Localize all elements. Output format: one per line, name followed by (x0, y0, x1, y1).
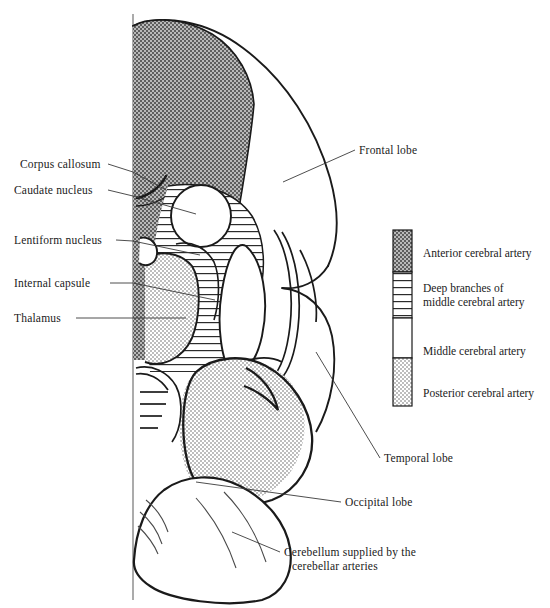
label-corpus-callosum: Corpus callosum (20, 157, 101, 171)
legend-label-anterior-cerebral-artery: Anterior cerebral artery (423, 246, 532, 260)
legend-swatch-posterior (393, 358, 412, 406)
label-caudate-nucleus: Caudate nucleus (14, 183, 93, 197)
label-occipital-lobe: Occipital lobe (345, 495, 413, 509)
cerebellum-shape (134, 477, 291, 603)
legend-label-deep-branches-line1: Deep branches of (423, 281, 503, 295)
caption-cerebellum-line2: cerebellar arteries (292, 559, 378, 573)
label-lentiform-nucleus: Lentiform nucleus (14, 233, 102, 247)
label-temporal-lobe: Temporal lobe (384, 451, 453, 465)
legend-swatch-middle (393, 318, 412, 358)
lateral-sulcus-structures (272, 230, 316, 380)
legend-label-deep-branches-line2: middle cerebral artery (423, 295, 525, 309)
legend-label-middle-cerebral-artery: Middle cerebral artery (423, 344, 526, 358)
label-thalamus: Thalamus (14, 311, 61, 325)
legend-swatch-anterior (393, 230, 412, 272)
caption-cerebellum-line1: Cerebellum supplied by the (284, 545, 416, 559)
legend-swatch-deep-branches (393, 272, 412, 318)
legend-bar (393, 230, 412, 406)
label-frontal-lobe: Frontal lobe (359, 143, 417, 157)
brainstem-structures (136, 367, 181, 442)
label-internal-capsule: Internal capsule (14, 276, 90, 290)
caudate-nucleus-shape (171, 185, 231, 247)
legend-label-posterior-cerebral-artery: Posterior cerebral artery (423, 386, 534, 400)
